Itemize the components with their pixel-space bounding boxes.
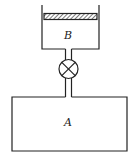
valve-icon bbox=[59, 60, 78, 79]
apparatus-diagram: B A bbox=[0, 0, 136, 158]
pipe-lower bbox=[66, 78, 72, 97]
pipe-upper bbox=[66, 49, 72, 60]
piston bbox=[44, 14, 97, 20]
container-b bbox=[42, 5, 99, 49]
container-a-label: A bbox=[63, 116, 72, 129]
container-b-label: B bbox=[63, 29, 72, 42]
